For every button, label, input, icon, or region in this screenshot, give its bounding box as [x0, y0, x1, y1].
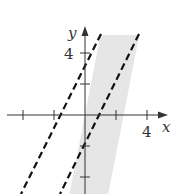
inequality-graph: 4 4 x y	[0, 0, 181, 194]
y-tick-label: 4	[64, 45, 74, 63]
y-axis-label: y	[67, 24, 77, 42]
x-tick-label: 4	[142, 123, 152, 141]
y-axis-arrow-icon	[82, 26, 89, 36]
x-axis-label: x	[162, 118, 171, 136]
